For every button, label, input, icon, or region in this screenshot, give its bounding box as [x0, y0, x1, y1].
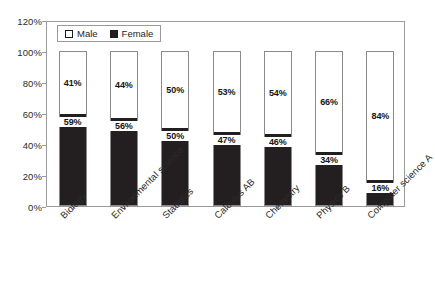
bar-stack [264, 51, 292, 206]
y-axis-tick-label: 80% [23, 78, 42, 89]
legend-label-male: Male [77, 28, 98, 39]
bar-group: 41%59% [59, 20, 87, 206]
x-axis-tick-mark [278, 206, 279, 210]
plot-area: 41%59%44%56%50%50%53%47%54%46%66%34%84%1… [46, 21, 405, 207]
y-axis-tick-label: 0% [28, 202, 42, 213]
y-axis-tick-label: 60% [23, 109, 42, 120]
y-axis-tick-label: 120% [17, 16, 42, 27]
bar-label-female: 59% [59, 117, 87, 127]
bar-label-male: 44% [110, 80, 138, 90]
legend-item-female: Female [110, 28, 154, 39]
bar-stack [161, 51, 189, 206]
x-axis-tick-mark [175, 206, 176, 210]
x-axis-tick-mark [380, 206, 381, 210]
chart-legend: Male Female [57, 25, 161, 42]
x-axis-tick-mark [329, 206, 330, 210]
bar-label-male: 53% [213, 87, 241, 97]
legend-label-female: Female [122, 28, 154, 39]
bar-segment-female [111, 118, 137, 205]
bar-label-female: 34% [315, 155, 343, 165]
y-axis-tick-label: 40% [23, 140, 42, 151]
bar-label-male: 54% [264, 88, 292, 98]
open-square-icon [65, 30, 73, 38]
y-axis-tick: 0% [0, 201, 42, 213]
bar-segment-female [60, 114, 86, 205]
y-axis-tick: 120% [0, 15, 42, 27]
y-axis-tick: 100% [0, 46, 42, 58]
bar-label-female: 47% [213, 135, 241, 145]
y-axis-tick: 60% [0, 108, 42, 120]
bar-stack [315, 51, 343, 206]
legend-item-male: Male [65, 28, 98, 39]
bar-group: 53%47% [213, 20, 241, 206]
bar-stack [213, 51, 241, 206]
y-axis-tick: 40% [0, 139, 42, 151]
y-axis-tick-label: 20% [23, 171, 42, 182]
bar-group: 54%46% [264, 20, 292, 206]
bar-label-male: 50% [161, 85, 189, 95]
y-axis-tick: 80% [0, 77, 42, 89]
bar-group: 84%16% [366, 20, 394, 206]
bar-label-female: 56% [110, 121, 138, 131]
bar-label-male: 84% [366, 111, 394, 121]
bar-label-male: 41% [59, 78, 87, 88]
bar-label-female: 16% [366, 183, 394, 193]
bar-group: 50%50% [161, 20, 189, 206]
x-axis-tick-mark [124, 206, 125, 210]
bar-stack [59, 51, 87, 206]
bar-label-female: 46% [264, 137, 292, 147]
bar-group: 44%56% [110, 20, 138, 206]
y-axis-tick: 20% [0, 170, 42, 182]
filled-square-icon [110, 30, 118, 38]
bar-group: 66%34% [315, 20, 343, 206]
y-axis-tick-label: 100% [17, 47, 42, 58]
bar-label-female: 50% [161, 131, 189, 141]
bar-label-male: 66% [315, 97, 343, 107]
x-axis-tick-mark [227, 206, 228, 210]
x-axis-tick-mark [73, 206, 74, 210]
y-axis: 120%100%80%60%40%20%0% [0, 21, 42, 207]
